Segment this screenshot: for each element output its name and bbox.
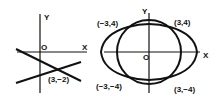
right-x-label: X (203, 51, 209, 60)
right-figure: Y X O (−3,4) (3,4) (−3,−4) (3,−4) (96, 7, 209, 94)
diagram-canvas: Y X O (3,−2) Y X O (−3,4) (3,4) (−3,−4) … (0, 0, 222, 101)
left-figure: Y X O (3,−2) (16, 13, 88, 93)
point-label-top-right: (3,4) (174, 18, 191, 27)
intersection-label: (3,−2) (48, 75, 69, 84)
left-origin-label: O (41, 43, 47, 52)
point-label-top-left: (−3,4) (97, 19, 118, 28)
right-y-label: Y (142, 7, 148, 16)
right-origin-label: O (143, 53, 149, 62)
left-x-label: X (82, 43, 88, 52)
point-label-bottom-left: (−3,−4) (96, 82, 122, 91)
point-label-bottom-right: (3,−4) (174, 85, 195, 94)
left-y-label: Y (44, 13, 50, 22)
